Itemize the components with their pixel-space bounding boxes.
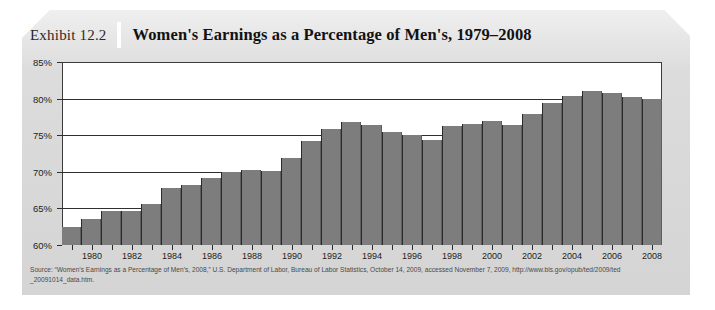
x-tick-label: 1988 <box>242 251 262 261</box>
y-tick-label: 65% <box>33 203 52 214</box>
bar-2002 <box>522 114 542 245</box>
source-note: Source: “Women’s Earnings as a Percentag… <box>30 265 670 285</box>
x-tick-label: 2006 <box>602 251 622 261</box>
bar-1988 <box>241 170 261 245</box>
bar-1982 <box>121 211 141 245</box>
bar-1995 <box>382 132 402 245</box>
bar-1980 <box>81 219 101 245</box>
y-tick-label: 60% <box>33 240 52 251</box>
bar-1985 <box>181 185 201 245</box>
x-tick-label: 1996 <box>402 251 422 261</box>
bar-1987 <box>221 172 241 245</box>
x-tick <box>332 245 333 250</box>
x-tick <box>112 245 113 250</box>
x-tick <box>212 245 213 250</box>
x-tick <box>192 245 193 250</box>
x-tick <box>412 245 413 250</box>
exhibit-header: Exhibit 12.2 Women's Earnings as a Perce… <box>30 22 680 48</box>
y-tick-label: 85% <box>33 57 52 68</box>
x-tick <box>272 245 273 250</box>
bar-1991 <box>301 141 321 245</box>
x-tick <box>132 245 133 250</box>
x-tick <box>492 245 493 250</box>
bar-1997 <box>422 140 442 245</box>
x-tick <box>372 245 373 250</box>
x-tick <box>552 245 553 250</box>
bar-2001 <box>502 125 522 245</box>
x-tick <box>312 245 313 250</box>
x-tick <box>352 245 353 250</box>
x-tick <box>472 245 473 250</box>
y-tick-label: 75% <box>33 130 52 141</box>
bar-1993 <box>341 122 361 245</box>
header-divider <box>117 22 121 48</box>
x-tick <box>632 245 633 250</box>
bar-1998 <box>442 126 462 245</box>
bar-1994 <box>361 125 381 245</box>
bar-2004 <box>562 96 582 245</box>
x-tick <box>232 245 233 250</box>
bar-series <box>62 62 662 245</box>
x-tick <box>92 245 93 250</box>
bar-2006 <box>602 93 622 245</box>
source-line-1: Source: “Women’s Earnings as a Percentag… <box>30 265 670 275</box>
x-tick-label: 2002 <box>522 251 542 261</box>
x-tick <box>532 245 533 250</box>
x-tick-label: 1994 <box>362 251 382 261</box>
bar-2000 <box>482 121 502 245</box>
x-tick-label: 1998 <box>442 251 462 261</box>
x-tick-label: 2000 <box>482 251 502 261</box>
x-tick-label: 1982 <box>122 251 142 261</box>
y-tick-label: 80% <box>33 93 52 104</box>
x-tick <box>152 245 153 250</box>
exhibit-number: Exhibit 12.2 <box>30 27 117 44</box>
x-tick <box>572 245 573 250</box>
x-tick-label: 1986 <box>202 251 222 261</box>
x-tick <box>592 245 593 250</box>
bar-1979 <box>62 227 81 245</box>
x-tick-label: 1990 <box>282 251 302 261</box>
bar-2008 <box>642 99 662 245</box>
x-tick <box>172 245 173 250</box>
x-tick <box>512 245 513 250</box>
bar-1999 <box>462 124 482 245</box>
bar-1996 <box>402 135 422 245</box>
bar-2003 <box>542 103 562 245</box>
x-tick-label: 1992 <box>322 251 342 261</box>
bar-1983 <box>141 204 161 245</box>
bar-1986 <box>201 178 221 245</box>
x-tick-label: 1980 <box>82 251 102 261</box>
x-tick <box>252 245 253 250</box>
bar-2005 <box>582 91 602 245</box>
x-tick <box>392 245 393 250</box>
x-tick <box>72 245 73 250</box>
bar-2007 <box>622 97 642 245</box>
bar-1984 <box>161 188 181 245</box>
x-tick <box>652 245 653 250</box>
x-axis: 1980198219841986198819901992199419961998… <box>62 245 662 267</box>
bar-1989 <box>261 171 281 245</box>
x-tick <box>292 245 293 250</box>
x-tick-label: 2004 <box>562 251 582 261</box>
bar-1981 <box>101 211 121 245</box>
bar-1990 <box>281 158 301 245</box>
screenshot-root: Exhibit 12.2 Women's Earnings as a Perce… <box>0 0 715 310</box>
x-tick-label: 1984 <box>162 251 182 261</box>
plot-area <box>62 62 662 245</box>
x-tick <box>432 245 433 250</box>
source-line-2: _20091014_data.htm. <box>30 275 670 285</box>
page-title: Women's Earnings as a Percentage of Men'… <box>133 25 532 45</box>
y-tick-label: 70% <box>33 166 52 177</box>
x-tick-label: 2008 <box>642 251 662 261</box>
x-tick <box>612 245 613 250</box>
y-axis: 60%65%70%75%80%85% <box>0 55 58 252</box>
bar-1992 <box>321 129 341 245</box>
x-tick <box>452 245 453 250</box>
